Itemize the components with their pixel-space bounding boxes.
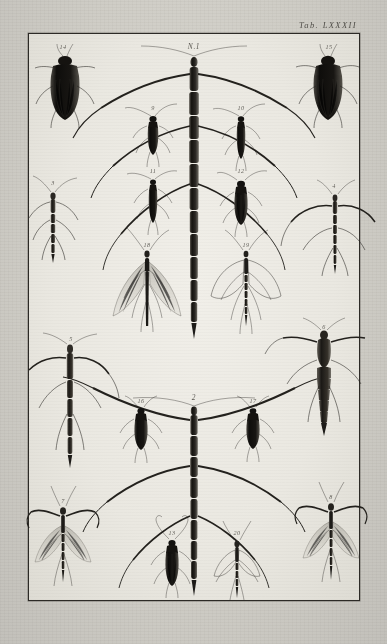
figure-number-6: 6: [322, 323, 325, 330]
figure-number-20: 20: [234, 529, 241, 536]
figure-16-small-beetle: [120, 396, 162, 463]
figure-number-15: 15: [326, 43, 333, 50]
figure-number-N1: N.1: [188, 42, 200, 51]
figure-3-stick-insect: [29, 176, 78, 263]
figure-number-3: 3: [51, 179, 54, 186]
figure-number-13: 13: [169, 529, 176, 536]
figure-number-11: 11: [150, 167, 156, 174]
figure-15-water-beetle: [296, 44, 359, 128]
figure-number-9: 9: [151, 104, 154, 111]
figure-number-4: 4: [332, 182, 335, 189]
figure-10-longhorn-beetle: [213, 104, 265, 171]
engraving-plate: Tab. LXXXII: [0, 0, 387, 644]
figure-number-17: 17: [250, 397, 257, 404]
figure-2-giant-stick-insect: [63, 377, 325, 596]
figure-9-longhorn-beetle: [125, 104, 177, 167]
figure-number-2: 2: [192, 393, 196, 402]
figure-number-8: 8: [329, 493, 332, 500]
figure-5-stick-insect: [29, 333, 119, 468]
figure-12-round-beetle: [217, 171, 267, 237]
figure-6-broad-bodied-insect: [265, 318, 365, 436]
plate-number-label: Tab. LXXXII: [299, 20, 357, 30]
figure-number-14: 14: [60, 43, 67, 50]
figure-number-16: 16: [138, 397, 145, 404]
figure-number-19: 19: [243, 241, 250, 248]
figure-number-5: 5: [69, 335, 72, 342]
figure-number-18: 18: [144, 241, 151, 248]
figure-number-10: 10: [238, 104, 245, 111]
figure-14-water-beetle: [35, 44, 95, 128]
figure-13-beetle: [151, 516, 193, 598]
figure-number-12: 12: [238, 167, 245, 174]
figure-11-slender-beetle: [127, 171, 177, 235]
figure-number-7: 7: [61, 497, 64, 504]
specimen-artwork: [29, 34, 359, 600]
engraved-plate-frame: N.1234567891011121314151617181920: [28, 33, 360, 601]
